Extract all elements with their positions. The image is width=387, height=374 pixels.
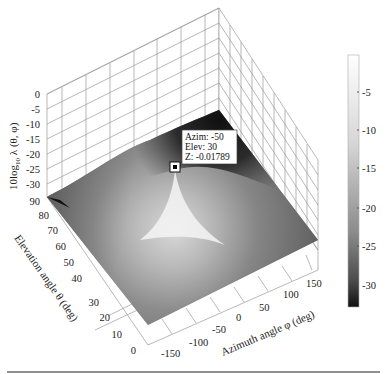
z-axis-label: 10log10 λ (θ, φ): [7, 122, 22, 190]
svg-text:80: 80: [39, 210, 50, 221]
svg-text:60: 60: [56, 241, 67, 252]
svg-text:-25: -25: [26, 164, 40, 175]
svg-text:70: 70: [48, 225, 59, 236]
svg-text:-10: -10: [26, 119, 40, 130]
svg-text:50: 50: [64, 257, 75, 268]
svg-text:-15: -15: [26, 134, 40, 145]
datatip-z: Z: -0.01789: [185, 152, 230, 162]
svg-text:30: 30: [89, 297, 100, 308]
svg-text:20: 20: [100, 312, 111, 323]
datatip-box: Azim: -50 Elev: 30 Z: -0.01789: [182, 130, 237, 164]
svg-text:-20: -20: [26, 149, 40, 160]
svg-text:-10: -10: [362, 125, 376, 136]
azimuth-axis-label: Azimuth angle φ (deg): [219, 308, 317, 359]
surface-plot: Azim: -50 Elev: 30 Z: -0.01789 0 -5 -10 …: [0, 0, 387, 374]
svg-text:-150: -150: [161, 348, 180, 359]
svg-text:-100: -100: [189, 337, 208, 348]
z-axis: 0 -5 -10 -15 -20 -25 -30 10log10 λ (θ, φ…: [7, 89, 40, 190]
svg-text:0: 0: [35, 89, 40, 100]
svg-text:50: 50: [259, 302, 270, 313]
datatip-elev: Elev: 30: [185, 142, 217, 152]
svg-text:40: 40: [72, 273, 83, 284]
svg-text:100: 100: [283, 289, 299, 300]
datatip-marker[interactable]: [170, 162, 180, 172]
svg-text:-50: -50: [212, 324, 226, 335]
datatip-azim: Azim: -50: [185, 132, 224, 142]
svg-text:-20: -20: [362, 203, 376, 214]
svg-text:-5: -5: [31, 104, 40, 115]
svg-text:-5: -5: [362, 87, 371, 98]
svg-text:-30: -30: [362, 280, 376, 291]
svg-text:90: 90: [30, 196, 41, 207]
svg-text:-15: -15: [362, 163, 376, 174]
svg-text:-30: -30: [26, 179, 40, 190]
svg-text:0: 0: [131, 345, 136, 356]
svg-text:-25: -25: [362, 241, 376, 252]
svg-text:0: 0: [236, 312, 241, 323]
colorbar: -5 -10 -15 -20 -25 -30: [348, 55, 376, 307]
svg-text:10: 10: [112, 329, 123, 340]
svg-text:150: 150: [306, 278, 322, 289]
